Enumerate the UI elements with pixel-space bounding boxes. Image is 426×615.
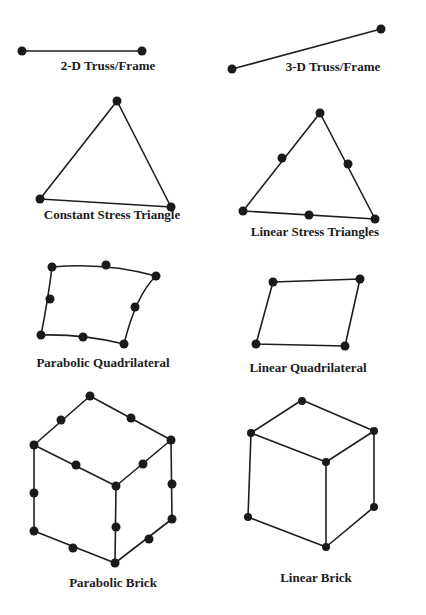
linear-brick-element [248,400,374,547]
label-constant-stress-triangle: Constant Stress Triangle [44,207,181,223]
label-linear-stress-triangles: Linear Stress Triangles [251,224,379,240]
constant-stress-triangle-element [40,101,171,207]
nodes [18,25,386,568]
linear-stress-triangle-element [243,113,375,219]
label-linear-brick: Linear Brick [280,570,352,586]
label-parabolic-quadrilateral: Parabolic Quadrilateral [36,355,169,371]
element-diagram [0,0,426,615]
label-linear-quadrilateral: Linear Quadrilateral [249,360,366,376]
label-parabolic-brick: Parabolic Brick [69,575,157,591]
linear-quadrilateral-element [256,279,360,346]
label-3d-truss: 3-D Truss/Frame [286,59,380,75]
label-2d-truss: 2-D Truss/Frame [61,58,155,74]
